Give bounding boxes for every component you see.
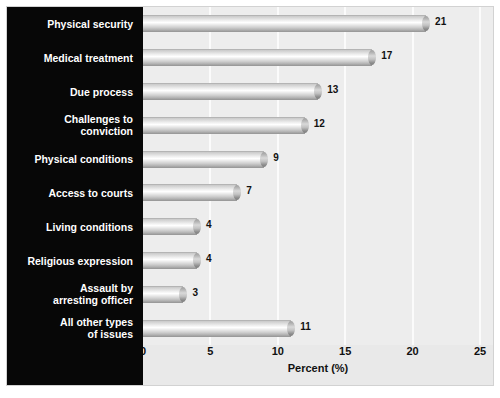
category-label: All other types of issues — [9, 316, 133, 340]
bar-value-label: 17 — [381, 47, 392, 64]
bar-end-cap — [314, 84, 322, 99]
bar — [143, 83, 318, 100]
bar-end-cap — [233, 185, 241, 200]
chart-figure: 211713129744311 Physical securityMedical… — [0, 0, 500, 398]
bar — [143, 286, 183, 303]
category-label: Due process — [9, 86, 133, 98]
bar — [143, 49, 372, 66]
bar-end-cap — [287, 321, 295, 336]
bar-end-cap — [368, 50, 376, 65]
bar-value-label: 11 — [300, 318, 311, 335]
category-label: Living conditions — [9, 221, 133, 233]
bar-row: 21 — [143, 7, 493, 41]
x-tick-label: 20 — [406, 345, 418, 357]
category-label: Challenges to conviction — [9, 113, 133, 137]
bar-value-label: 13 — [327, 81, 338, 98]
bar-value-label: 4 — [206, 250, 212, 267]
bar-value-label: 9 — [273, 149, 279, 166]
x-tick-label: 5 — [207, 345, 213, 357]
category-label: Physical security — [9, 18, 133, 30]
bar-end-cap — [179, 287, 187, 302]
plot-area: 211713129744311 — [143, 7, 493, 345]
bar-end-cap — [193, 219, 201, 234]
x-tick-label: 15 — [339, 345, 351, 357]
bar-row: 3 — [143, 277, 493, 311]
bar — [143, 320, 291, 337]
bar-end-cap — [260, 152, 268, 167]
bar-row: 13 — [143, 75, 493, 109]
bar-value-label: 21 — [435, 13, 446, 30]
bar — [143, 252, 197, 269]
bar — [143, 151, 264, 168]
bar — [143, 15, 426, 32]
bar — [143, 184, 237, 201]
bar-value-label: 12 — [314, 115, 325, 132]
bar-end-cap — [422, 16, 430, 31]
category-label: Religious expression — [9, 255, 133, 267]
bar — [143, 117, 305, 134]
category-label: Medical treatment — [9, 52, 133, 64]
bar-row: 7 — [143, 176, 493, 210]
x-axis: 0510152025 Percent (%) — [143, 345, 493, 385]
bar-row: 17 — [143, 41, 493, 75]
category-label-panel: Physical securityMedical treatmentDue pr… — [7, 7, 143, 385]
bar-value-label: 4 — [206, 216, 212, 233]
bar-row: 11 — [143, 311, 493, 345]
bar-row: 9 — [143, 142, 493, 176]
x-tick-label: 25 — [474, 345, 486, 357]
category-label: Access to courts — [9, 187, 133, 199]
bar — [143, 218, 197, 235]
x-tick-label: 10 — [272, 345, 284, 357]
bar-value-label: 7 — [246, 182, 252, 199]
category-label: Assault by arresting officer — [9, 282, 133, 306]
category-label: Physical conditions — [9, 153, 133, 165]
bar-end-cap — [193, 253, 201, 268]
bar-value-label: 3 — [192, 284, 198, 301]
bar-end-cap — [301, 118, 309, 133]
bar-row: 4 — [143, 244, 493, 278]
x-axis-title: Percent (%) — [143, 362, 493, 374]
bar-row: 12 — [143, 108, 493, 142]
bar-row: 4 — [143, 210, 493, 244]
